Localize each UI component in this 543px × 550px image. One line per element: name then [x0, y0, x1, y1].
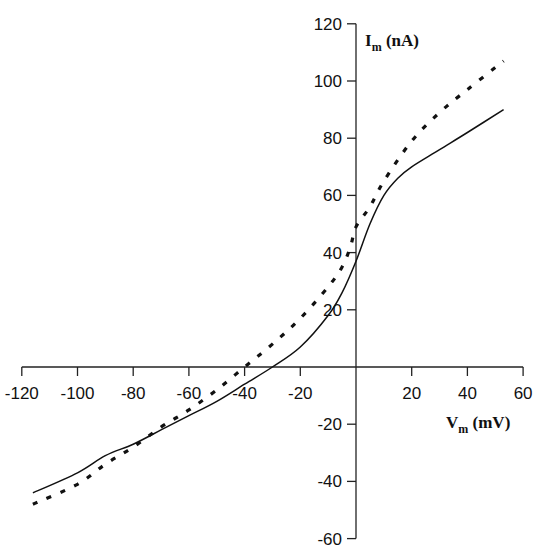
y-tick-label: 80 [323, 129, 342, 148]
x-tick-label: 60 [514, 384, 533, 403]
solid-curve [33, 110, 504, 493]
x-tick-label: -60 [177, 384, 202, 403]
data-series [33, 61, 504, 504]
y-tick-label: -60 [317, 530, 342, 549]
y-tick-label: 60 [323, 186, 342, 205]
x-tick-label: 40 [458, 384, 477, 403]
x-tick-label: -80 [121, 384, 146, 403]
y-axis-title: Im (nA) [365, 31, 419, 54]
x-tick-label: -120 [5, 384, 39, 403]
iv-curve-chart: -120-100-80-60-40-2020406012010080604020… [0, 0, 543, 550]
y-tick-label: 120 [314, 15, 342, 34]
x-tick-label: -40 [232, 384, 257, 403]
y-tick-label: 100 [314, 72, 342, 91]
y-tick-label: 40 [323, 244, 342, 263]
y-tick-label: -20 [317, 415, 342, 434]
x-axis-title: Vm (mV) [446, 413, 510, 436]
x-tick-label: -20 [288, 384, 313, 403]
axis-labels: Im (nA) Vm (mV) [365, 31, 510, 436]
x-tick-label: -100 [60, 384, 94, 403]
y-tick-label: -40 [317, 472, 342, 491]
dashed-curve [33, 61, 504, 504]
x-tick-label: 20 [402, 384, 421, 403]
